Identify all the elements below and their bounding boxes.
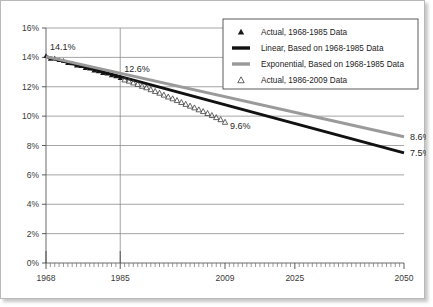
- y-axis-tick-label: 12%: [22, 82, 39, 92]
- chart-container: 0%2%4%6%8%10%12%14%16% 19681985200920252…: [0, 0, 425, 299]
- legend-item-label: Actual, 1968-1985 Data: [261, 28, 347, 37]
- x-axis-tick-label: 2009: [216, 273, 235, 283]
- y-axis-tick-labels: 0%2%4%6%8%10%12%14%16%: [22, 23, 39, 268]
- chart-plot: 0%2%4%6%8%10%12%14%16% 19681985200920252…: [1, 1, 426, 300]
- chart-legend: Actual, 1968-1985 DataLinear, Based on 1…: [223, 19, 418, 89]
- y-axis-tick-label: 8%: [27, 141, 40, 151]
- y-axis-tick-label: 2%: [27, 229, 40, 239]
- x-axis-tick-label: 2025: [285, 273, 304, 283]
- x-axis-tick-label: 1968: [37, 273, 56, 283]
- data-callout-label: 14.1%: [50, 42, 76, 52]
- x-axis-tick-label: 2050: [395, 273, 414, 283]
- y-axis-tick-label: 0%: [27, 258, 40, 268]
- legend-item-label: Linear, Based on 1968-1985 Data: [261, 44, 384, 53]
- y-axis-tick-label: 16%: [22, 23, 39, 33]
- data-callout-label: 12.6%: [124, 64, 150, 74]
- y-axis-tick-label: 14%: [22, 52, 39, 62]
- x-axis-tick-label: 1985: [111, 273, 130, 283]
- y-axis-tick-label: 10%: [22, 111, 39, 121]
- data-callout-label: 8.6%: [410, 132, 426, 142]
- legend-item-label: Actual, 1986-2009 Data: [261, 76, 347, 85]
- legend-item-label: Exponential, Based on 1968-1985 Data: [261, 60, 404, 69]
- x-axis-tick-labels: 19681985200920252050: [37, 273, 414, 283]
- data-callout-label: 7.5%: [410, 148, 426, 158]
- y-axis-tick-label: 6%: [27, 170, 40, 180]
- y-axis-tick-label: 4%: [27, 199, 40, 209]
- data-callout-label: 9.6%: [230, 121, 251, 131]
